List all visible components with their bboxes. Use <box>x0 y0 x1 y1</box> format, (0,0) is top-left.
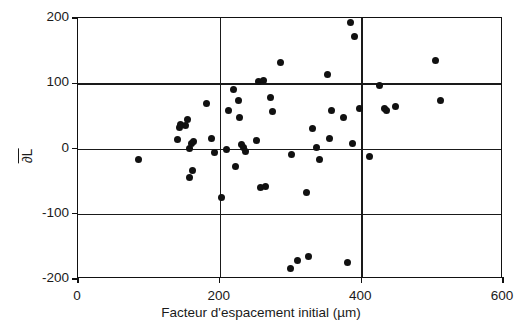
data-point <box>232 163 239 170</box>
y-tick-label: 200 <box>46 10 69 24</box>
data-point <box>267 94 274 101</box>
data-point <box>376 82 383 89</box>
data-point <box>189 167 196 174</box>
gridline-vertical <box>220 18 221 277</box>
data-point <box>223 146 230 153</box>
data-point <box>303 189 310 196</box>
y-axis-title-text: ∂L <box>18 149 34 164</box>
y-tick-label: -200 <box>42 271 69 285</box>
y-tick-label: -100 <box>42 206 69 220</box>
data-point <box>218 194 225 201</box>
y-tick-mark <box>72 17 78 18</box>
x-tick-label: 0 <box>73 289 81 303</box>
scatter-chart-figure: 2001000-100-200 ∂L 0200400600 Facteur d'… <box>0 0 522 329</box>
data-point <box>383 107 390 114</box>
data-point <box>269 108 276 115</box>
data-point <box>313 144 320 151</box>
data-point <box>288 151 295 158</box>
data-point <box>344 259 351 266</box>
x-tick-label: 200 <box>207 289 230 303</box>
x-tick-mark <box>219 277 220 283</box>
data-point <box>351 33 358 40</box>
gridline-vertical <box>361 18 362 277</box>
data-point <box>174 136 181 143</box>
data-point <box>287 265 294 272</box>
data-point <box>437 97 444 104</box>
data-point <box>366 153 373 160</box>
data-point <box>203 100 210 107</box>
data-point <box>316 156 323 163</box>
data-point <box>230 86 237 93</box>
data-point <box>186 174 193 181</box>
data-point <box>347 19 354 26</box>
y-tick-label: 0 <box>61 141 69 155</box>
gridline-horizontal <box>78 149 501 150</box>
data-point <box>392 103 399 110</box>
x-tick-mark <box>361 277 362 283</box>
data-point <box>211 149 218 156</box>
data-point <box>253 137 260 144</box>
y-axis-title: ∂L <box>6 130 46 182</box>
gridline-horizontal <box>78 83 501 84</box>
data-point <box>277 59 284 66</box>
y-tick-mark <box>72 213 78 214</box>
x-axis-title: Facteur d'espacement initial (µm) <box>0 306 522 320</box>
x-tick-label: 400 <box>349 289 372 303</box>
y-tick-mark <box>72 83 78 84</box>
x-tick-mark <box>77 277 78 283</box>
gridline-horizontal <box>78 214 501 215</box>
data-point <box>242 148 249 155</box>
data-point <box>324 71 331 78</box>
x-tick-label: 600 <box>491 289 514 303</box>
data-point <box>356 105 363 112</box>
data-point <box>182 122 189 129</box>
data-point <box>190 138 197 145</box>
data-point <box>349 140 356 147</box>
plot-area <box>77 17 502 278</box>
data-point <box>328 107 335 114</box>
data-point <box>208 135 215 142</box>
data-point <box>184 116 191 123</box>
data-point <box>340 114 347 121</box>
data-point <box>326 135 333 142</box>
data-point <box>225 107 232 114</box>
y-tick-label: 100 <box>46 75 69 89</box>
data-point <box>236 114 243 121</box>
data-point <box>262 183 269 190</box>
data-point <box>235 97 242 104</box>
y-tick-mark <box>72 148 78 149</box>
data-point <box>294 257 301 264</box>
data-point <box>135 156 142 163</box>
x-tick-mark <box>502 277 503 283</box>
data-point <box>305 253 312 260</box>
data-point <box>432 57 439 64</box>
data-point <box>309 125 316 132</box>
